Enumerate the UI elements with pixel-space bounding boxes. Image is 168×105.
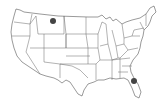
us-map: [0, 0, 168, 105]
us-outline: [11, 6, 156, 98]
us-map-svg: [0, 0, 168, 105]
florida-marker: [131, 78, 137, 84]
montana-marker: [50, 18, 56, 24]
